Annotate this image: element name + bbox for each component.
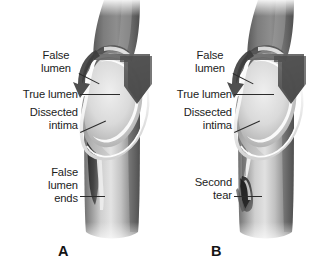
label-second-tear-b: Second tear — [176, 176, 232, 202]
label-true-lumen-b: True lumen — [158, 88, 232, 101]
leader-true-lumen-b — [234, 94, 274, 95]
label-dissected-intima-b: Dissected intima — [164, 106, 232, 132]
leader-second-tear-b — [234, 196, 262, 197]
panel-b: False lumen True lumen Dissected intima … — [158, 0, 316, 265]
panel-a: False lumen True lumen Dissected intima … — [0, 0, 158, 265]
vessel-illustration-a — [0, 0, 158, 265]
label-false-lumen-ends-a: False lumen ends — [30, 166, 78, 206]
panel-letter-b: B — [211, 243, 221, 259]
label-true-lumen-a: True lumen — [4, 88, 78, 101]
vessel-illustration-b — [158, 0, 316, 265]
label-false-lumen-b: False lumen — [187, 49, 233, 75]
panel-letter-a: A — [58, 243, 68, 259]
label-false-lumen-a: False lumen — [33, 49, 79, 75]
figure-aortic-dissection: False lumen True lumen Dissected intima … — [0, 0, 316, 265]
label-dissected-intima-a: Dissected intima — [10, 106, 78, 132]
leader-false-lumen-ends-a — [80, 196, 105, 197]
leader-true-lumen-a — [80, 94, 120, 95]
